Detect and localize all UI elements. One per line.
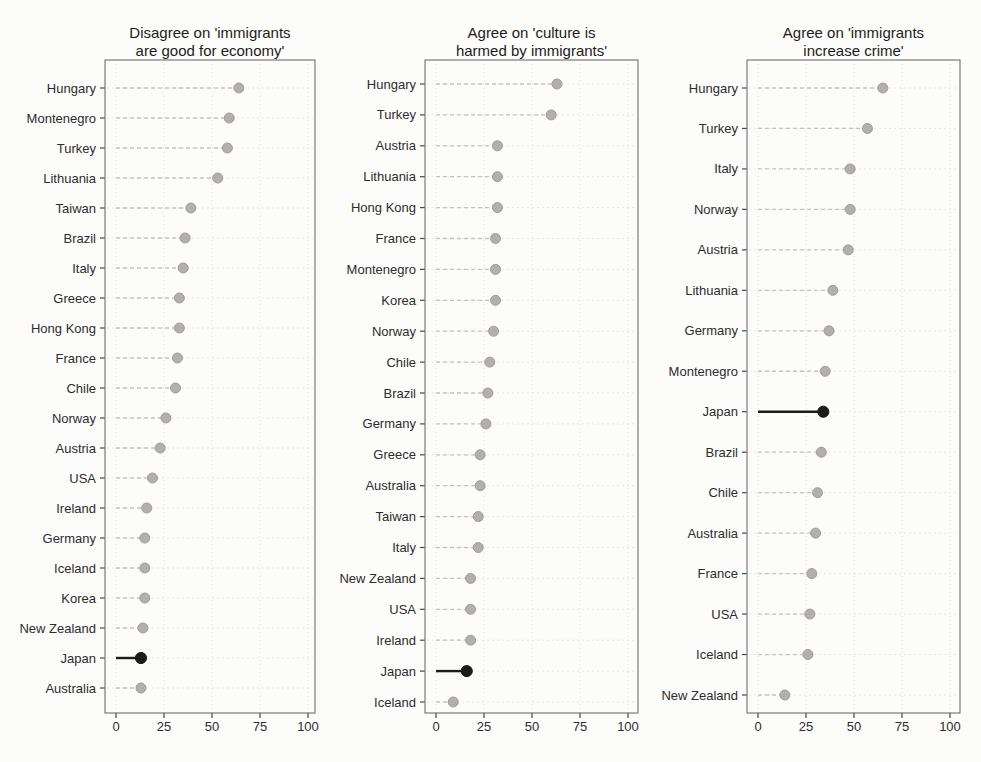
figure: HungaryMontenegroTurkeyLithuaniaTaiwanBr…: [0, 0, 981, 762]
data-point-taiwan: [186, 203, 196, 213]
category-label: Australia: [45, 681, 96, 696]
category-label: Chile: [708, 485, 738, 500]
data-point-iceland: [803, 650, 813, 660]
category-label: Hong Kong: [31, 321, 96, 336]
data-point-austria: [492, 141, 502, 151]
data-point-turkey: [546, 110, 556, 120]
data-point-lithuania: [213, 173, 223, 183]
panel-title-line-2: increase crime': [803, 42, 904, 59]
data-point-new-zealand: [466, 573, 476, 583]
category-label: Germany: [363, 416, 417, 431]
data-point-iceland: [448, 697, 458, 707]
category-label: Ireland: [376, 633, 416, 648]
data-point-montenegro: [491, 264, 501, 274]
category-label: Greece: [53, 291, 96, 306]
data-point-brazil: [180, 233, 190, 243]
category-label: Norway: [52, 411, 97, 426]
category-label: Iceland: [54, 561, 96, 576]
category-label: Greece: [373, 447, 416, 462]
category-label: Taiwan: [376, 509, 416, 524]
highlight-data-point-japan: [461, 666, 472, 677]
highlight-data-point-japan: [818, 406, 829, 417]
category-label: Chile: [386, 355, 416, 370]
category-label: Turkey: [57, 141, 97, 156]
category-label: Austria: [56, 441, 97, 456]
category-label: Australia: [687, 526, 738, 541]
panel-1: HungaryMontenegroTurkeyLithuaniaTaiwanBr…: [19, 24, 318, 734]
data-point-australia: [475, 481, 485, 491]
data-point-iceland: [140, 563, 150, 573]
category-label: Germany: [43, 531, 97, 546]
category-label: Ireland: [56, 501, 96, 516]
x-tick-label: 100: [617, 719, 639, 734]
data-point-montenegro: [820, 366, 830, 376]
category-label: Turkey: [699, 121, 739, 136]
data-point-hong-kong: [174, 323, 184, 333]
data-point-italy: [473, 543, 483, 553]
data-point-norway: [845, 204, 855, 214]
x-tick-label: 25: [477, 719, 491, 734]
data-point-turkey: [862, 123, 872, 133]
data-point-turkey: [222, 143, 232, 153]
data-point-hong-kong: [492, 203, 502, 213]
data-point-greece: [174, 293, 184, 303]
x-tick-label: 25: [157, 719, 171, 734]
figure-svg: HungaryMontenegroTurkeyLithuaniaTaiwanBr…: [0, 0, 981, 762]
data-point-hungary: [552, 79, 562, 89]
category-label: Brazil: [383, 386, 416, 401]
category-label: Korea: [381, 293, 416, 308]
panel-3: HungaryTurkeyItalyNorwayAustriaLithuania…: [661, 24, 960, 734]
category-label: France: [376, 231, 416, 246]
category-label: Italy: [72, 261, 96, 276]
data-point-usa: [147, 473, 157, 483]
x-tick-label: 75: [253, 719, 267, 734]
category-label: Italy: [392, 540, 416, 555]
category-label: Iceland: [374, 695, 416, 710]
category-label: Japan: [61, 651, 96, 666]
category-label: Norway: [694, 202, 739, 217]
data-point-korea: [491, 295, 501, 305]
data-point-ireland: [466, 635, 476, 645]
category-label: Japan: [703, 404, 738, 419]
data-point-chile: [485, 357, 495, 367]
data-point-germany: [481, 419, 491, 429]
data-point-chile: [171, 383, 181, 393]
x-tick-label: 0: [754, 719, 761, 734]
data-point-italy: [845, 164, 855, 174]
data-point-australia: [136, 683, 146, 693]
data-point-usa: [466, 604, 476, 614]
panel-title-line-1: Agree on 'culture is: [468, 24, 596, 41]
category-label: Chile: [66, 381, 96, 396]
category-label: Hungary: [367, 77, 417, 92]
category-label: Hungary: [47, 81, 97, 96]
data-point-montenegro: [224, 113, 234, 123]
category-label: Montenegro: [27, 111, 96, 126]
panel-title-line-1: Disagree on 'immigrants: [129, 24, 290, 41]
data-point-austria: [843, 245, 853, 255]
category-label: USA: [389, 602, 416, 617]
panel-title-line-2: are good for economy': [136, 42, 285, 59]
data-point-usa: [805, 609, 815, 619]
data-point-norway: [489, 326, 499, 336]
plot-background: [425, 60, 638, 713]
category-label: Austria: [376, 138, 417, 153]
data-point-greece: [475, 450, 485, 460]
data-point-ireland: [142, 503, 152, 513]
data-point-france: [172, 353, 182, 363]
panel-title-line-1: Agree on 'immigrants: [783, 24, 924, 41]
plot-background: [105, 60, 315, 713]
x-tick-label: 100: [939, 719, 961, 734]
category-label: Australia: [365, 478, 416, 493]
category-label: Brazil: [705, 445, 738, 460]
data-point-hungary: [878, 83, 888, 93]
plot-background: [747, 60, 960, 713]
category-label: USA: [711, 607, 738, 622]
data-point-chile: [813, 488, 823, 498]
data-point-hungary: [234, 83, 244, 93]
category-label: USA: [69, 471, 96, 486]
data-point-austria: [155, 443, 165, 453]
category-label: New Zealand: [339, 571, 416, 586]
category-label: Norway: [372, 324, 417, 339]
x-tick-label: 50: [525, 719, 539, 734]
data-point-germany: [140, 533, 150, 543]
